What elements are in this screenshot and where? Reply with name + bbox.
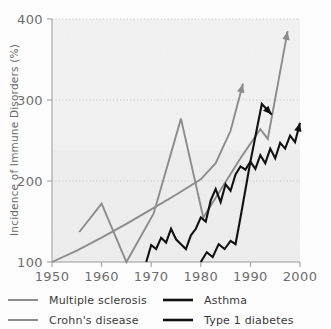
- x-tick-label-1950: 1950: [35, 269, 70, 284]
- legend-label: Asthma: [204, 294, 247, 307]
- y-tick-label-300: 300: [17, 93, 43, 108]
- plot-background: [52, 19, 300, 262]
- x-tick-label-1990: 1990: [233, 269, 268, 284]
- chart-legend: Multiple sclerosisAsthmaCrohn's diseaseT…: [8, 294, 294, 327]
- legend-item-type-1-diabetes: Type 1 diabetes: [163, 314, 294, 327]
- x-tick-label-1970: 1970: [134, 269, 169, 284]
- x-axis-ticks: 195019601970198019902000: [35, 262, 318, 284]
- legend-label: Multiple sclerosis: [49, 294, 147, 307]
- y-axis-ticks: 100200300400: [17, 12, 52, 270]
- y-tick-label-200: 200: [17, 174, 43, 189]
- y-tick-label-400: 400: [17, 12, 43, 27]
- legend-item-crohn-s-disease: Crohn's disease: [8, 314, 139, 327]
- x-tick-label-1980: 1980: [183, 269, 218, 284]
- legend-label: Type 1 diabetes: [203, 314, 294, 327]
- y-axis-label: Incidence of Immune Disorders (%): [8, 44, 20, 236]
- chart-canvas: 100200300400 195019601970198019902000 In…: [0, 0, 331, 329]
- y-tick-label-100: 100: [17, 255, 43, 270]
- legend-label: Crohn's disease: [49, 314, 139, 327]
- x-tick-label-1960: 1960: [84, 269, 119, 284]
- legend-item-multiple-sclerosis: Multiple sclerosis: [8, 294, 147, 307]
- x-tick-label-2000: 2000: [283, 269, 318, 284]
- immune-disorders-chart: 100200300400 195019601970198019902000 In…: [0, 0, 331, 329]
- legend-item-asthma: Asthma: [163, 294, 247, 307]
